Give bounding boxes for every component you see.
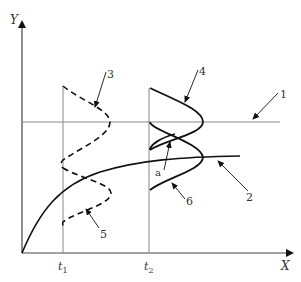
diagram-figure: Y X t1 t2 1 2 3 4 5 6 a <box>0 0 301 282</box>
y-axis-label: Y <box>10 13 19 27</box>
callout-6-leader <box>172 183 185 199</box>
callout-a-leader <box>164 142 170 170</box>
x-axis-label: X <box>280 259 290 273</box>
middle-solid-distribution-t2 <box>150 122 203 190</box>
callout-1-leader <box>253 93 278 119</box>
callout-3-leader <box>95 72 106 107</box>
diagram-canvas: Y X t1 t2 1 2 3 4 5 6 a <box>0 0 301 282</box>
callout-4-leader <box>185 70 198 102</box>
callout-2-leader <box>218 161 248 191</box>
upper-dashed-distribution-t1 <box>61 86 110 168</box>
callout-2-label: 2 <box>246 191 253 204</box>
callout-6-label: 6 <box>186 195 193 208</box>
callout-3-label: 3 <box>107 68 114 81</box>
trend-curve <box>22 156 240 253</box>
callout-4-label: 4 <box>199 65 206 78</box>
callout-5-leader <box>86 209 99 228</box>
callout-5-label: 5 <box>100 228 107 241</box>
callout-1-label: 1 <box>280 88 287 101</box>
t2-label: t2 <box>144 260 154 275</box>
t1-label: t1 <box>58 260 68 275</box>
callout-a-label: a <box>155 167 161 178</box>
